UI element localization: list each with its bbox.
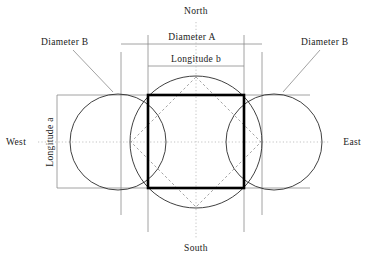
guide-lines: [57, 35, 320, 232]
label-diameter-a: Diameter A: [168, 32, 216, 42]
leader-diameter-b-left: [73, 50, 113, 92]
leader-diameter-b-right: [283, 50, 320, 92]
label-north: North: [184, 6, 208, 16]
circle-left-diameter-b: [70, 94, 166, 190]
label-longitude-a: Longitude a: [45, 117, 55, 167]
diagram-canvas: North South West East Diameter A Longitu…: [0, 0, 367, 260]
label-longitude-b: Longitude b: [171, 54, 221, 64]
label-east: East: [343, 137, 361, 147]
label-west: West: [6, 137, 26, 147]
label-south: South: [184, 243, 208, 253]
label-diameter-b-left: Diameter B: [41, 37, 89, 47]
label-diameter-b-right: Diameter B: [301, 37, 349, 47]
construction-diagram: North South West East Diameter A Longitu…: [0, 0, 367, 260]
